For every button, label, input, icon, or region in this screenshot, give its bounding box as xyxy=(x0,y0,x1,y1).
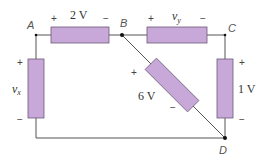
minus-vy: − xyxy=(200,13,206,24)
element-1v xyxy=(217,59,233,118)
minus-vx: − xyxy=(17,114,23,125)
element-vx xyxy=(28,59,44,118)
wires xyxy=(36,35,225,138)
plus-vy: + xyxy=(148,13,154,24)
label-2v: 2 V xyxy=(70,8,88,22)
plus-2v: + xyxy=(51,13,57,24)
node-b-label: B xyxy=(120,17,127,29)
element-2v xyxy=(51,27,109,43)
plus-1v: + xyxy=(239,57,245,68)
element-vy xyxy=(147,27,207,43)
circuit-diagram: A B C D + 2 V − + vy − + vx − + 6 V − + … xyxy=(0,0,267,162)
node-a-dot xyxy=(35,34,38,37)
node-c-dot xyxy=(224,34,227,37)
label-6v: 6 V xyxy=(138,89,156,103)
node-b-dot xyxy=(120,33,124,37)
minus-2v: − xyxy=(103,13,109,24)
minus-1v: − xyxy=(239,114,245,125)
node-a-label: A xyxy=(26,19,34,31)
node-c-label: C xyxy=(228,22,236,34)
plus-6v: + xyxy=(131,67,137,78)
label-vx: vx xyxy=(12,82,21,97)
plus-vx: + xyxy=(17,57,23,68)
label-1v: 1 V xyxy=(238,82,256,96)
minus-6v: − xyxy=(170,102,176,113)
node-d-dot xyxy=(223,136,227,140)
label-vy: vy xyxy=(172,9,181,25)
node-d-label: D xyxy=(219,144,227,156)
